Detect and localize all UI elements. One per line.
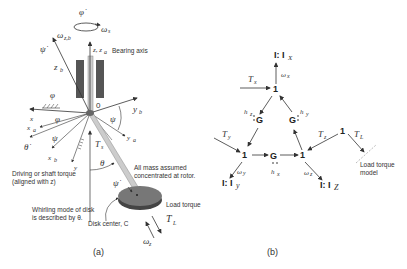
svg-text:z: z — [148, 241, 152, 247]
svg-text:ω: ω — [304, 169, 309, 177]
svg-text:h: h — [244, 108, 248, 116]
svg-text:L: L — [172, 220, 177, 226]
gyrator-bottom: G — [270, 151, 277, 161]
svg-text:z: z — [53, 62, 58, 72]
svg-text:y: y — [305, 111, 309, 117]
svg-text:ψ̇: ψ̇ — [113, 178, 122, 188]
disk-center-label: Disk center, C — [88, 220, 129, 227]
inertia-x: I: I — [274, 50, 285, 60]
svg-text:z,b: z,b — [63, 35, 71, 41]
hub — [86, 110, 94, 116]
phi-dot-label: φ̇ — [79, 7, 87, 17]
shaft-upper — [88, 56, 93, 114]
svg-text:ψ: ψ — [110, 114, 116, 124]
svg-text:is described by θ.: is described by θ. — [32, 214, 83, 222]
svg-text:ω: ω — [237, 168, 242, 176]
svg-text:ψ: ψ — [52, 133, 58, 143]
junction-top: 1 — [273, 84, 278, 94]
svg-text:X: X — [287, 54, 293, 62]
svg-text:a: a — [104, 49, 107, 55]
svg-text:b: b — [60, 67, 63, 73]
svg-text:z: z — [323, 134, 327, 140]
svg-text:a: a — [33, 127, 36, 133]
whirling-mode-label: Whirling mode of disk — [32, 206, 95, 214]
inertia-y: I: I — [222, 178, 233, 188]
all-mass-label: All mass assumed — [134, 164, 187, 171]
svg-text:b: b — [139, 109, 142, 115]
junction-left: 1 — [242, 150, 247, 160]
svg-text:z: z — [249, 111, 253, 117]
svg-text:ω: ω — [281, 71, 286, 79]
disk-top — [118, 186, 162, 206]
svg-text:x: x — [29, 115, 34, 123]
panel-b: I: I X ω x T x 1 h z G G h y T y 1 G h x — [214, 50, 395, 257]
svg-text:z: z — [309, 171, 313, 177]
junction-load: 1 — [340, 126, 345, 136]
svg-text:(aligned with z): (aligned with z) — [12, 178, 56, 186]
svg-text:x: x — [26, 124, 31, 132]
svg-text:y: y — [235, 181, 240, 190]
svg-text:φ: φ — [50, 90, 55, 100]
svg-text:x: x — [47, 154, 52, 162]
bearing-axis-label: Bearing axis — [112, 47, 149, 55]
svg-text:y: y — [132, 104, 137, 114]
inertia-z: I: I — [320, 180, 331, 190]
svg-text:model: model — [360, 169, 378, 176]
svg-text:h: h — [300, 108, 304, 116]
driving-torque-label: Driving or shaft torque — [12, 170, 76, 178]
svg-text:y: y — [126, 134, 131, 142]
gyrator-left: G — [256, 115, 263, 125]
svg-text:x: x — [253, 79, 257, 85]
svg-text:θ̇: θ̇ — [24, 142, 31, 152]
figure-canvas: φ̇ ω s z, z a Bearing axis ω z,b ψ̇ z b … — [0, 0, 407, 269]
caption-b: (b) — [267, 247, 278, 257]
svg-text:ψ̇: ψ̇ — [40, 44, 49, 54]
svg-text:s: s — [108, 28, 111, 34]
svg-text:Z: Z — [334, 183, 339, 192]
spin-ellipse — [74, 23, 98, 31]
panel-a: φ̇ ω s z, z a Bearing axis ω z,b ψ̇ z b … — [12, 7, 201, 257]
omega-s-label: ω — [101, 24, 107, 34]
gyrator-right: G — [289, 115, 296, 125]
svg-text:b: b — [54, 157, 57, 163]
svg-text:x: x — [286, 73, 290, 79]
svg-text:h: h — [271, 168, 275, 176]
svg-text:s: s — [101, 144, 104, 150]
svg-text:z, z: z, z — [92, 46, 102, 54]
svg-text:a: a — [133, 137, 136, 143]
svg-text:concentrated at rotor.: concentrated at rotor. — [134, 172, 196, 179]
svg-text:T: T — [166, 213, 173, 224]
caption-a: (a) — [93, 247, 104, 257]
svg-text:y: y — [242, 170, 246, 176]
bearing-right — [96, 60, 104, 98]
svg-text:θ: θ — [100, 158, 105, 168]
junction-right: 1 — [300, 150, 305, 160]
svg-text:L: L — [359, 134, 364, 140]
svg-text:x: x — [276, 171, 280, 177]
load-torque-model-label: Load torque — [360, 161, 395, 169]
svg-text:y: y — [227, 134, 231, 140]
load-torque-label: Load torque — [166, 201, 201, 209]
origin-label: 0 — [96, 101, 101, 110]
svg-text:ω: ω — [57, 30, 63, 40]
